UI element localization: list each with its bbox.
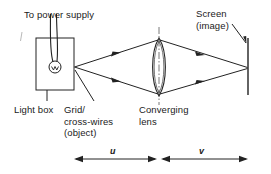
label-screen: Screen (image) <box>196 8 229 31</box>
refracted-ray-arrowheads <box>195 52 205 85</box>
label-light-box: Light box <box>14 104 53 116</box>
refracted-rays <box>160 40 248 94</box>
diagram-canvas <box>0 0 271 174</box>
incident-rays <box>75 40 159 94</box>
light-box-outline <box>36 38 74 90</box>
lamp-bulb-icon <box>49 61 61 73</box>
stray-tick-mark <box>21 32 23 41</box>
label-power-supply: To power supply <box>24 9 94 21</box>
grid-object-leader <box>75 70 94 101</box>
label-image-distance-v: v <box>199 146 204 158</box>
incident-ray-arrowheads <box>111 52 121 83</box>
label-converging-lens: Converging lens <box>139 104 189 127</box>
dimension-v <box>161 156 248 162</box>
label-grid-cross-wires-object: Grid/ cross-wires (object) <box>64 104 113 139</box>
label-object-distance-u: u <box>110 146 116 158</box>
screen-leader <box>232 24 246 43</box>
optics-ray-diagram: To power supply Screen (image) Light box… <box>0 0 271 174</box>
